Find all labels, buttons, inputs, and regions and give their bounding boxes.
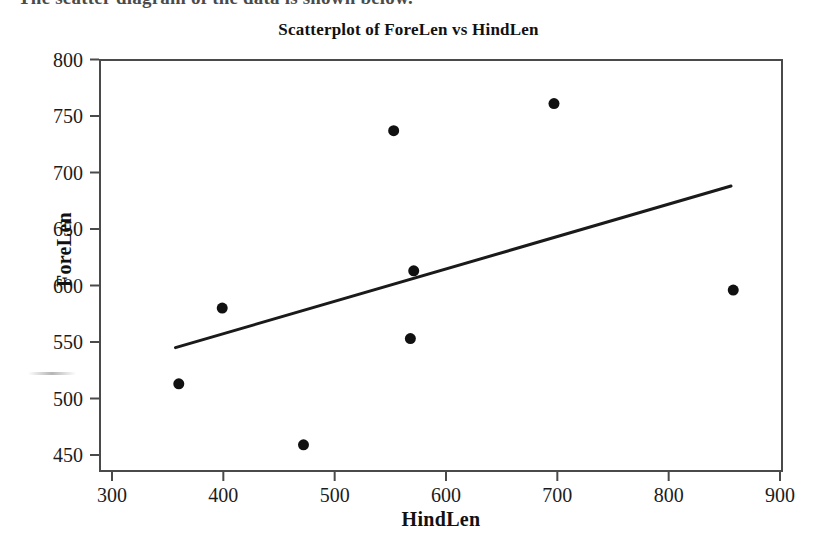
figure-page: The scatter diagram of the data is shown… (0, 0, 817, 548)
scan-artifact (28, 372, 76, 375)
x-tick-label: 700 (542, 484, 572, 507)
x-tick-label: 400 (208, 484, 238, 507)
x-tick-label: 900 (765, 484, 795, 507)
x-tick-label: 800 (654, 484, 684, 507)
y-tick-label: 750 (25, 105, 83, 128)
y-tick-label: 550 (25, 331, 83, 354)
plot-area-frame (99, 59, 783, 472)
page-caption-text: The scatter diagram of the data is shown… (18, 0, 578, 9)
y-tick-label: 800 (25, 48, 83, 71)
x-axis-title: HindLen (99, 508, 783, 531)
x-tick-label: 300 (97, 484, 127, 507)
x-tick-label: 500 (320, 484, 350, 507)
y-tick-label: 450 (25, 444, 83, 467)
x-tick-label: 600 (431, 484, 461, 507)
y-axis-title: ForeLen (53, 180, 76, 320)
y-tick-label: 500 (25, 387, 83, 410)
chart-title: Scatterplot of ForeLen vs HindLen (0, 20, 817, 40)
